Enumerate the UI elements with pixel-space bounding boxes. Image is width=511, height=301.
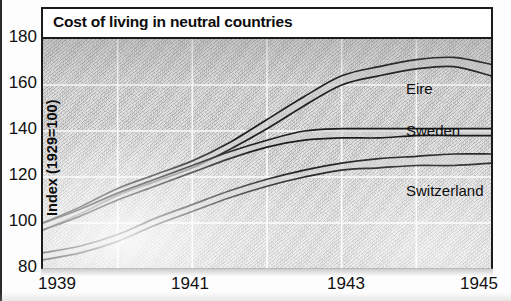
chart-frame: Cost of living in neutral countries Eire…: [41, 7, 493, 269]
series-label-eire: Eire: [406, 80, 433, 97]
x-tick-1939: 1939: [38, 274, 76, 294]
chart-title: Cost of living in neutral countries: [53, 13, 292, 31]
y-axis-tick-labels: 180 160 140 120 100 80: [0, 0, 39, 301]
x-axis-tick-labels: 1939 1941 1943 1945: [0, 274, 511, 301]
y-tick-120: 120: [9, 166, 37, 183]
x-tick-1945: 1945: [460, 274, 498, 294]
series-label-switzerland: Switzerland: [406, 182, 484, 199]
x-tick-1941: 1941: [171, 274, 209, 294]
series-label-sweden: Sweden: [406, 122, 460, 139]
y-tick-80: 80: [18, 258, 37, 275]
plot-area: Eire Sweden Switzerland: [43, 37, 491, 269]
chart-lines: [43, 39, 491, 269]
x-tick-1943: 1943: [327, 274, 365, 294]
y-tick-140: 140: [9, 120, 37, 137]
y-tick-160: 160: [9, 74, 37, 91]
y-axis-title: Index (1929=100): [44, 100, 60, 216]
chart-screenshot: 180 160 140 120 100 80 Cost of living in…: [0, 0, 511, 301]
y-tick-100: 100: [9, 212, 37, 229]
y-tick-180: 180: [9, 28, 37, 45]
chart-title-band: Cost of living in neutral countries: [43, 9, 491, 37]
